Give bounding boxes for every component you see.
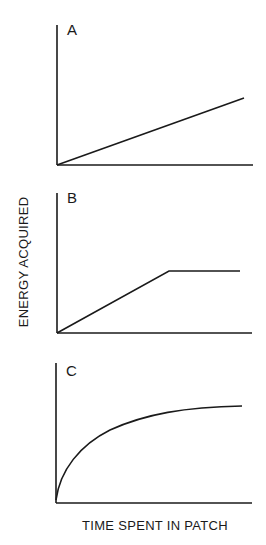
panel-b-curve xyxy=(57,271,240,333)
panel-c xyxy=(56,363,252,503)
panel-a-label: A xyxy=(67,22,77,37)
x-axis-label: TIME SPENT IN PATCH xyxy=(82,518,228,533)
panel-c-curve xyxy=(56,406,242,500)
panel-c-label: C xyxy=(66,363,77,378)
y-axis-label: ENERGY ACQUIRED xyxy=(16,197,31,328)
panel-b xyxy=(57,193,252,333)
panel-a-curve xyxy=(57,98,244,165)
panel-b-label: B xyxy=(67,190,77,205)
panel-a xyxy=(57,25,253,165)
figure-canvas xyxy=(0,0,266,545)
